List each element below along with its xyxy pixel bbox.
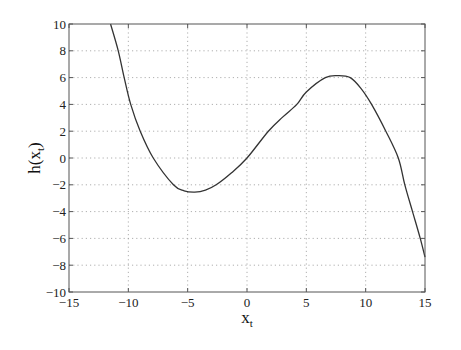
y-axis-label: h(xt) xyxy=(25,142,46,173)
y-tick-label: −8 xyxy=(52,258,66,273)
y-tick-label: −10 xyxy=(46,285,66,300)
y-tick-label: 8 xyxy=(60,43,67,58)
y-tick-label: 6 xyxy=(60,70,67,85)
x-axis-ticks: −15−10−5051015 xyxy=(59,24,432,310)
y-tick-label: 10 xyxy=(53,17,66,32)
x-axis-label: xt xyxy=(241,308,253,329)
x-tick-label: 15 xyxy=(419,295,432,310)
chart: −15−10−5051015 −10−8−6−4−20246810 xt h(x… xyxy=(0,0,461,350)
data-series-curve xyxy=(111,24,425,257)
x-tick-label: 5 xyxy=(303,295,310,310)
y-tick-label: −6 xyxy=(52,231,66,246)
y-tick-label: 2 xyxy=(60,124,67,139)
x-tick-label: −10 xyxy=(118,295,138,310)
y-tick-label: −4 xyxy=(52,204,66,219)
y-tick-label: 4 xyxy=(60,97,67,112)
y-tick-label: 0 xyxy=(60,151,67,166)
y-tick-label: −2 xyxy=(52,177,66,192)
x-tick-label: −5 xyxy=(181,295,195,310)
x-tick-label: 10 xyxy=(359,295,372,310)
